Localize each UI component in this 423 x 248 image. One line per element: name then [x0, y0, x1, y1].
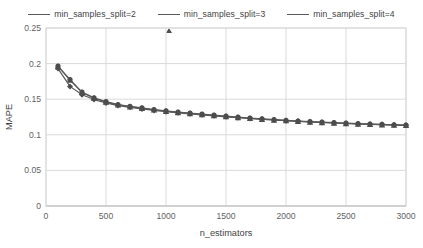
- y-tick-label: 0.2: [29, 59, 41, 69]
- x-tick-label: 1000: [156, 211, 175, 221]
- data-series: [55, 63, 409, 128]
- series-line: [58, 69, 406, 126]
- y-tick-label: 0.1: [29, 130, 41, 140]
- axis-titles: n_estimatorsMAPE: [4, 104, 253, 238]
- y-axis-ticks: 00.050.10.150.20.25: [24, 23, 41, 211]
- y-tick-label: 0: [36, 201, 41, 211]
- series-1: [55, 63, 408, 127]
- x-axis-title: n_estimators: [200, 228, 253, 238]
- x-tick-label: 3000: [396, 211, 415, 221]
- plot-area: 00.050.10.150.20.25 05001000150020002500…: [0, 0, 423, 248]
- y-tick-label: 0.25: [24, 23, 41, 33]
- series-3: [55, 66, 409, 129]
- chart-root: min_samples_split=2 min_samples_split=3 …: [0, 0, 423, 248]
- series-line: [58, 66, 406, 125]
- plot-svg: 00.050.10.150.20.25 05001000150020002500…: [0, 0, 423, 248]
- x-tick-label: 2500: [336, 211, 355, 221]
- x-tick-label: 500: [99, 211, 114, 221]
- x-axis-ticks: 050010001500200025003000: [44, 211, 416, 221]
- x-tick-label: 0: [44, 211, 49, 221]
- y-axis-title: MAPE: [4, 104, 14, 130]
- series-2: [55, 63, 409, 128]
- y-tick-label: 0.05: [24, 165, 41, 175]
- x-tick-label: 2000: [276, 211, 295, 221]
- series-line: [58, 66, 406, 125]
- y-tick-label: 0.15: [24, 94, 41, 104]
- x-tick-label: 1500: [216, 211, 235, 221]
